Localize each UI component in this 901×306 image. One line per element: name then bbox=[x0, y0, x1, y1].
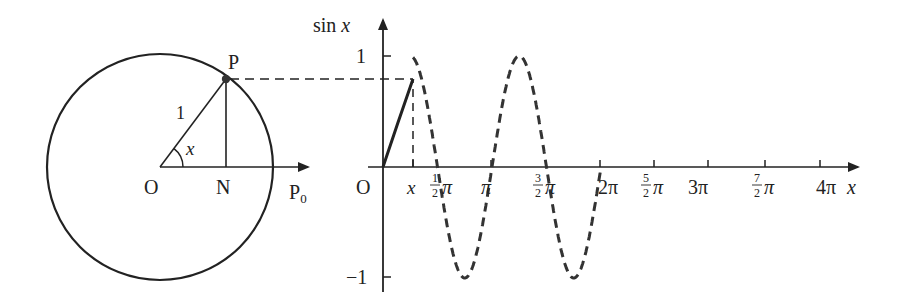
y-tick-label-1: 1 bbox=[356, 45, 366, 67]
sine-unit-circle-diagram: P 1 x O N P0 bbox=[0, 0, 901, 306]
origin-label: O bbox=[356, 176, 370, 198]
label-p0: P0 bbox=[289, 181, 307, 206]
label-p: P bbox=[228, 51, 239, 73]
x-tick-label-seven-halves-pi: 7 2 π bbox=[752, 171, 775, 200]
svg-text:2: 2 bbox=[754, 186, 760, 200]
svg-text:2: 2 bbox=[535, 186, 541, 200]
x-tick-label-pi: π bbox=[481, 176, 492, 198]
svg-text:π: π bbox=[442, 176, 453, 198]
label-radius: 1 bbox=[176, 103, 185, 123]
svg-text:3: 3 bbox=[535, 171, 541, 185]
x-axis-label: x bbox=[846, 176, 856, 198]
label-angle: x bbox=[185, 138, 195, 159]
svg-text:2: 2 bbox=[432, 186, 438, 200]
svg-text:π: π bbox=[764, 176, 775, 198]
x-ticks bbox=[413, 160, 820, 167]
label-n: N bbox=[216, 176, 230, 198]
x-tick-label-3pi: 3π bbox=[688, 176, 708, 198]
svg-text:π: π bbox=[545, 176, 556, 198]
x-tick-label-three-halves-pi: 3 2 π bbox=[533, 171, 556, 200]
svg-text:1: 1 bbox=[432, 171, 438, 185]
x-tick-label-2pi: 2π bbox=[598, 176, 618, 198]
x-tick-label-five-halves-pi: 5 2 π bbox=[641, 171, 664, 200]
svg-text:5: 5 bbox=[643, 171, 649, 185]
x-tick-labels: 1 2 π π 3 2 π 2π 5 2 π bbox=[430, 171, 836, 200]
y-tick-label-minus-1: −1 bbox=[346, 266, 367, 288]
sine-graph: sin x 1 −1 O x x 1 2 π π 3 2 π 2π bbox=[313, 14, 858, 292]
svg-text:2: 2 bbox=[643, 186, 649, 200]
svg-text:π: π bbox=[653, 176, 664, 198]
sine-solid-segment bbox=[383, 79, 413, 167]
x-marker-label: x bbox=[406, 177, 416, 198]
y-axis-label: sin x bbox=[313, 14, 350, 36]
angle-arc bbox=[174, 149, 183, 167]
x-tick-label-4pi: 4π bbox=[816, 176, 836, 198]
point-p bbox=[222, 75, 230, 83]
unit-circle-figure: P 1 x O N P0 bbox=[47, 51, 308, 280]
label-o-circle: O bbox=[144, 176, 158, 198]
svg-text:7: 7 bbox=[754, 171, 760, 185]
x-tick-label-half-pi: 1 2 π bbox=[430, 171, 453, 200]
